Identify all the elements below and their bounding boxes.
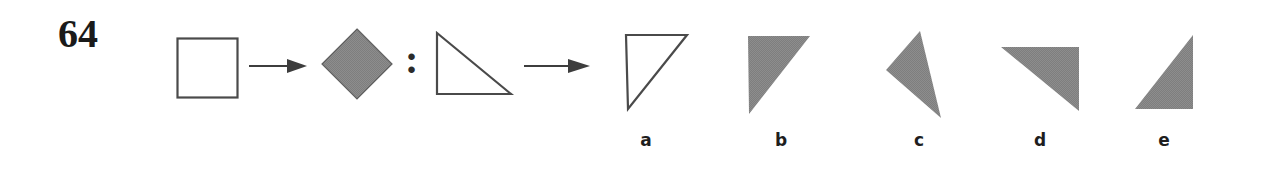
right-triangle-outline-figure xyxy=(434,30,516,98)
right-triangle-outline-icon xyxy=(434,30,516,98)
arrow-right-2 xyxy=(524,57,592,75)
option-c-figure[interactable] xyxy=(883,28,949,123)
option-b-figure[interactable] xyxy=(745,33,815,119)
right-triangle-filled-icon[interactable] xyxy=(745,33,815,119)
figure-stage: 64 : xyxy=(0,0,1269,172)
option-a-label[interactable]: a xyxy=(626,132,666,149)
arrow-right-1 xyxy=(249,57,309,75)
option-d-figure[interactable] xyxy=(998,44,1084,116)
option-c-label[interactable]: c xyxy=(899,132,939,149)
diamond-filled-figure xyxy=(320,27,396,103)
square-outline-figure xyxy=(176,37,242,102)
arrow-right-icon xyxy=(249,57,309,75)
scalene-triangle-filled-icon[interactable] xyxy=(883,28,949,123)
option-b-label[interactable]: b xyxy=(761,132,801,149)
item-number: 64 xyxy=(58,14,98,54)
diamond-filled-icon xyxy=(320,27,396,103)
option-a-figure[interactable] xyxy=(622,31,692,115)
option-e-figure[interactable] xyxy=(1132,32,1198,114)
option-e-label[interactable]: e xyxy=(1144,132,1184,149)
arrow-right-icon xyxy=(524,57,592,75)
right-triangle-filled-icon[interactable] xyxy=(1132,32,1198,114)
square-outline-icon xyxy=(176,37,242,102)
ratio-colon: : xyxy=(405,40,418,80)
right-triangle-outline-icon[interactable] xyxy=(622,31,692,115)
right-triangle-filled-icon[interactable] xyxy=(998,44,1084,116)
option-d-label[interactable]: d xyxy=(1020,132,1060,149)
